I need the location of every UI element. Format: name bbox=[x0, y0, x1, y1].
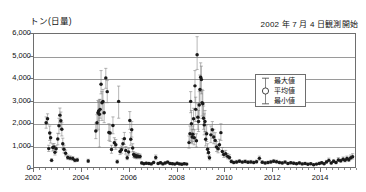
legend-label-max: 最大値 bbox=[274, 76, 295, 86]
x-tick-minor bbox=[195, 168, 196, 170]
x-tick-minor bbox=[183, 168, 184, 170]
y-tick-label: 5,000 bbox=[1, 52, 31, 60]
x-tick-minor bbox=[350, 168, 351, 170]
legend-entry-min: 最小値 bbox=[258, 96, 305, 106]
x-tick-minor bbox=[69, 168, 70, 170]
x-tick-minor bbox=[200, 168, 201, 170]
x-tick-minor bbox=[206, 168, 207, 170]
x-tick-minor bbox=[242, 168, 243, 170]
x-tick-minor bbox=[254, 168, 255, 170]
chart-figure: トン(日量) 2002 年 7 月 4 日観測開始 01,0002,0003,0… bbox=[0, 0, 366, 192]
y-tick-label: 0 bbox=[1, 164, 31, 172]
x-tick-minor bbox=[93, 168, 94, 170]
x-tick-minor bbox=[236, 168, 237, 170]
x-tick-minor bbox=[344, 168, 345, 170]
x-tick-minor bbox=[248, 168, 249, 170]
x-tick-minor bbox=[189, 168, 190, 170]
x-tick-minor bbox=[212, 168, 213, 170]
x-tick-label: 2004 bbox=[73, 174, 90, 182]
x-tick-label: 2002 bbox=[25, 174, 42, 182]
x-tick-minor bbox=[45, 168, 46, 170]
x-tick-minor bbox=[314, 168, 315, 170]
x-tick-minor bbox=[302, 168, 303, 170]
x-tick-minor bbox=[39, 168, 40, 170]
x-tick-major bbox=[320, 168, 321, 172]
x-tick-major bbox=[272, 168, 273, 172]
mean-circle-icon bbox=[258, 86, 273, 96]
x-tick-minor bbox=[153, 168, 154, 170]
y-axis-title: トン(日量) bbox=[30, 16, 72, 26]
x-tick-major bbox=[81, 168, 82, 172]
x-tick-minor bbox=[332, 168, 333, 170]
x-tick-minor bbox=[165, 168, 166, 170]
x-tick-major bbox=[129, 168, 130, 172]
x-tick-minor bbox=[105, 168, 106, 170]
x-tick-minor bbox=[171, 168, 172, 170]
legend-entry-max: 最大値 bbox=[258, 76, 305, 86]
y-tick-label: 3,000 bbox=[1, 97, 31, 105]
x-tick-minor bbox=[141, 168, 142, 170]
x-axis-tick-labels: 2002200420062008201020122014 bbox=[33, 168, 356, 190]
x-tick-minor bbox=[260, 168, 261, 170]
y-tick-label: 6,000 bbox=[1, 29, 31, 37]
x-tick-minor bbox=[278, 168, 279, 170]
error-bars bbox=[45, 37, 355, 166]
y-tick-label: 2,000 bbox=[1, 119, 31, 127]
x-tick-minor bbox=[51, 168, 52, 170]
x-tick-label: 2010 bbox=[216, 174, 233, 182]
x-tick-minor bbox=[57, 168, 58, 170]
x-tick-minor bbox=[117, 168, 118, 170]
y-axis-tick-labels: 01,0002,0003,0004,0005,0006,000 bbox=[0, 33, 31, 168]
x-tick-minor bbox=[159, 168, 160, 170]
x-tick-label: 2014 bbox=[312, 174, 329, 182]
legend-entry-mean: 平均値 bbox=[258, 86, 305, 96]
x-tick-major bbox=[33, 168, 34, 172]
x-tick-minor bbox=[111, 168, 112, 170]
x-tick-minor bbox=[326, 168, 327, 170]
x-tick-minor bbox=[87, 168, 88, 170]
x-tick-label: 2008 bbox=[168, 174, 185, 182]
x-tick-minor bbox=[218, 168, 219, 170]
y-tick-label: 1,000 bbox=[1, 142, 31, 150]
x-tick-minor bbox=[308, 168, 309, 170]
plot-area bbox=[33, 33, 356, 168]
legend: 最大値 平均値 最小値 bbox=[255, 74, 306, 107]
x-tick-minor bbox=[75, 168, 76, 170]
legend-label-min: 最小値 bbox=[274, 96, 295, 106]
x-tick-minor bbox=[266, 168, 267, 170]
x-tick-minor bbox=[338, 168, 339, 170]
x-tick-minor bbox=[296, 168, 297, 170]
data-series-layer bbox=[34, 34, 355, 167]
x-tick-major bbox=[177, 168, 178, 172]
x-tick-minor bbox=[284, 168, 285, 170]
x-tick-minor bbox=[99, 168, 100, 170]
x-tick-minor bbox=[290, 168, 291, 170]
x-tick-label: 2006 bbox=[120, 174, 137, 182]
y-tick-label: 4,000 bbox=[1, 74, 31, 82]
legend-label-mean: 平均値 bbox=[274, 86, 295, 96]
x-tick-minor bbox=[147, 168, 148, 170]
min-tick-icon bbox=[258, 96, 273, 106]
x-tick-major bbox=[224, 168, 225, 172]
x-tick-minor bbox=[123, 168, 124, 170]
x-tick-label: 2012 bbox=[264, 174, 281, 182]
x-tick-minor bbox=[135, 168, 136, 170]
x-tick-minor bbox=[63, 168, 64, 170]
observation-start-annotation: 2002 年 7 月 4 日観測開始 bbox=[261, 20, 358, 30]
x-tick-minor bbox=[230, 168, 231, 170]
x-tick-minor bbox=[356, 168, 357, 170]
max-tick-icon bbox=[258, 76, 273, 86]
